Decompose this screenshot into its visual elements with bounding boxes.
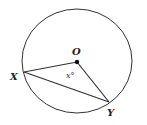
label-o: O [72, 46, 81, 57]
label-y: Y [107, 107, 115, 118]
label-x: X [9, 71, 19, 82]
circle-diagram: O X Y x° [0, 0, 147, 125]
angle-label: x° [66, 71, 75, 80]
center-point [75, 60, 79, 64]
